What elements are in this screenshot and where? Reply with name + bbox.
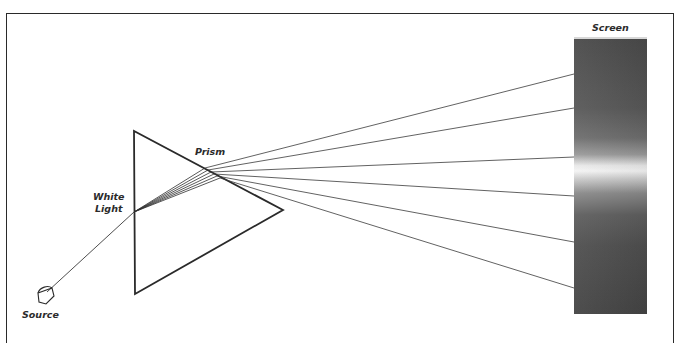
prism-label: Prism <box>195 146 225 158</box>
source-label: Source <box>22 309 59 321</box>
internal-rays <box>134 168 220 212</box>
light-source-icon <box>38 287 54 304</box>
screen-label: Screen <box>592 22 629 34</box>
dispersed-rays <box>205 74 574 288</box>
white-light-label: White Light <box>93 191 124 215</box>
incident-ray <box>47 212 134 292</box>
